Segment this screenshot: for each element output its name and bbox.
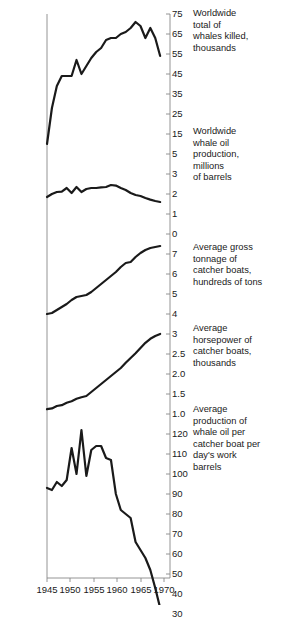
y-axis-tick-label: 2.0 xyxy=(172,369,196,379)
x-axis-tick-label: 1970 xyxy=(153,585,174,595)
y-axis-tick-label: 0 xyxy=(172,229,196,239)
series-line-whales-killed xyxy=(47,22,160,144)
y-axis-tick-label: 45 xyxy=(172,69,196,79)
y-axis-tick-label: 25 xyxy=(172,109,196,119)
x-axis-tick-label: 1955 xyxy=(83,585,104,595)
y-axis-tick-label: 90 xyxy=(172,489,196,499)
caption-whale-oil: Worldwide whale oil production, millions… xyxy=(193,126,289,184)
y-axis-tick-label: 40 xyxy=(172,589,196,599)
y-axis-tick-label: 1.5 xyxy=(172,389,196,399)
y-axis-tick-label: 5 xyxy=(172,289,196,299)
y-axis-tick-label: 80 xyxy=(172,509,196,519)
y-axis-tick-label: 4 xyxy=(172,309,196,319)
x-axis-tick-label: 1950 xyxy=(59,585,80,595)
y-axis-tick-label: 60 xyxy=(172,549,196,559)
y-axis-tick-label: 35 xyxy=(172,89,196,99)
y-axis-tick-label: 70 xyxy=(172,529,196,539)
series-line-whale-oil-production xyxy=(47,185,160,202)
caption-gross-tonnage: Average gross tonnage of catcher boats, … xyxy=(193,242,289,288)
y-axis-tick-label: 1 xyxy=(172,209,196,219)
x-axis-tick-label: 1965 xyxy=(130,585,151,595)
x-axis-tick-label: 1960 xyxy=(106,585,127,595)
y-axis-tick-label: 2 xyxy=(172,189,196,199)
caption-horsepower: Average horsepower of catcher boats, tho… xyxy=(193,323,289,369)
caption-production: Average production of whale oil per catc… xyxy=(193,404,289,474)
caption-whales-killed: Worldwide total of whales killed, thousa… xyxy=(193,8,289,54)
series-line-production-per-boat-day xyxy=(47,430,160,605)
series-line-horsepower xyxy=(47,334,160,409)
y-axis-tick-label: 50 xyxy=(172,569,196,579)
y-axis-tick-label: 30 xyxy=(172,609,196,619)
series-line-gross-tonnage xyxy=(47,246,160,314)
x-axis-tick-label: 1945 xyxy=(36,585,57,595)
